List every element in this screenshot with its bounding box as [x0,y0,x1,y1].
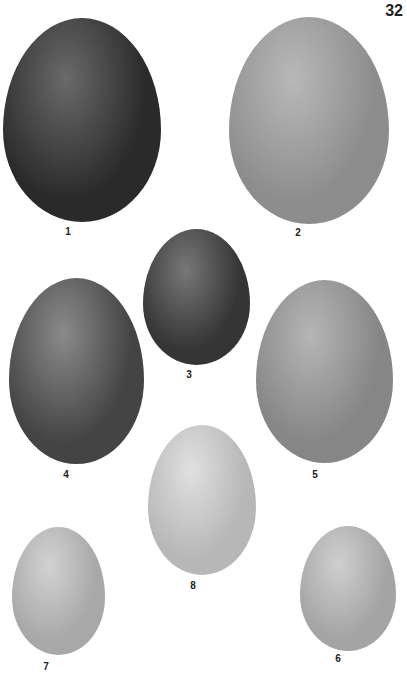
egg-2 [229,17,389,224]
egg-3 [143,229,250,365]
egg-1 [3,18,161,222]
egg-label: 2 [288,227,308,238]
egg-label: 6 [328,653,348,664]
egg-4 [9,278,144,464]
egg-label: 4 [56,469,76,480]
egg-label: 3 [179,369,199,380]
egg-label: 7 [36,661,56,672]
egg-6 [300,526,396,651]
plate-number: 32 [385,2,403,20]
egg-5 [256,280,393,463]
egg-label: 1 [58,226,78,237]
egg-label: 8 [183,580,203,591]
egg-7 [12,527,105,655]
egg-8 [148,425,256,575]
egg-label: 5 [305,469,325,480]
